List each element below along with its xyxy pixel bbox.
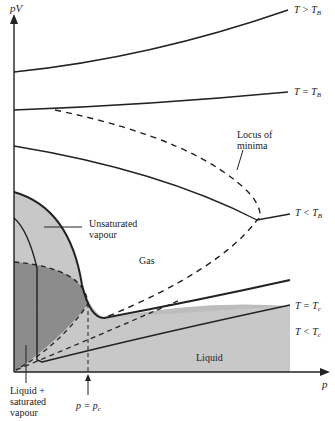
critical-pressure-arrow-icon [85,374,91,381]
label-liquid-sat-line1: Liquid + [10,385,45,396]
locus-pointer [237,150,243,170]
label-t-above-tb: T > TB [294,4,322,17]
label-unsaturated-line1: Unsaturated [89,218,137,229]
label-liquid-sat-line3: vapour [10,407,38,418]
y-axis-arrow-icon [10,14,18,24]
x-axis-arrow-icon [320,368,330,376]
curve-t-equals-tb [14,92,288,110]
label-gas: Gas [139,255,155,266]
x-axis-label: p [321,378,328,390]
label-unsaturated-line2: vapour [89,229,117,240]
label-liquid-sat-line2: saturated [10,396,46,407]
label-t-equals-tb: T = TB [294,86,322,99]
label-t-equals-tc: T = Tc [295,300,322,313]
label-locus-line1: Locus of [237,129,273,140]
label-liquid: Liquid [196,352,223,363]
label-critical-pressure: p = pc [75,400,102,413]
label-t-below-tc: T < Tc [295,326,322,339]
label-t-below-tb: T < TB [295,207,323,220]
y-axis-label: pV [9,2,24,14]
curve-t-above-tb [14,10,288,72]
pv-p-diagram: pV p T > TB T = TB T < TB T = Tc T < Tc … [0,0,335,421]
curve-t-below-tb [14,146,290,220]
locus-of-minima-dashed [55,110,260,318]
label-locus-line2: minima [237,140,268,151]
